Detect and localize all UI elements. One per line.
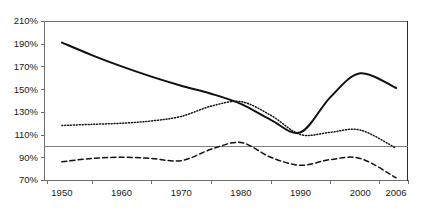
series-dotted (62, 101, 396, 148)
x-tick-label: 1960 (111, 187, 132, 198)
x-tick-label: 1970 (171, 187, 192, 198)
line-chart: 210%190%170%150%130%110%90%70% 195019601… (0, 0, 422, 213)
y-axis-tick-labels: 210%190%170%150%130%110%90%70% (14, 15, 39, 185)
y-tick-label: 130% (14, 106, 39, 117)
x-tick-label: 2006 (385, 187, 406, 198)
y-tick-label: 150% (14, 84, 39, 95)
y-tick-label: 190% (14, 38, 39, 49)
data-series (62, 43, 396, 178)
series-dashed (62, 142, 396, 177)
series-solid (62, 43, 396, 133)
y-axis-tick-marks (41, 22, 44, 181)
y-tick-label: 170% (14, 61, 39, 72)
x-tick-label: 2000 (350, 187, 371, 198)
y-tick-label: 110% (14, 129, 38, 140)
x-tick-label: 1980 (230, 187, 251, 198)
y-tick-label: 70% (19, 174, 39, 185)
x-axis-tick-labels: 1950196019701980199020002006 (51, 187, 406, 198)
y-tick-label: 90% (19, 152, 39, 163)
y-tick-label: 210% (14, 15, 39, 26)
x-tick-label: 1990 (290, 187, 311, 198)
x-tick-label: 1950 (51, 187, 72, 198)
chart-canvas: 210%190%170%150%130%110%90%70% 195019601… (0, 0, 422, 213)
